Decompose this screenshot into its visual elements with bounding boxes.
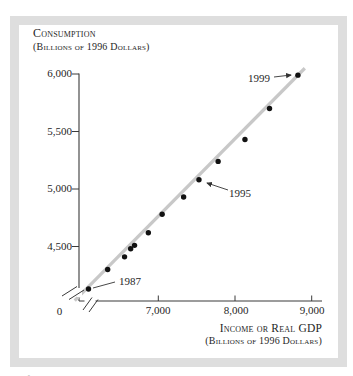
data-point-1991 xyxy=(132,243,137,248)
consumption-function-line xyxy=(75,68,305,300)
data-point-1993 xyxy=(159,212,164,217)
data-point-1989 xyxy=(122,254,127,259)
data-point-1995 xyxy=(196,177,201,182)
y-tick-label-5000: 5,000 xyxy=(28,182,72,195)
annotation-label-1999: 1999 xyxy=(237,72,281,85)
y-tick-label-4500: 4,500 xyxy=(28,240,72,253)
annotation-label-1995: 1995 xyxy=(218,187,262,200)
x-tick-label-7000: 7,000 xyxy=(137,304,179,317)
figure-panel: Consumption (Billions of 1996 Dollars) I… xyxy=(0,0,353,376)
data-point-1994 xyxy=(181,194,186,199)
y-axis-title-units: (Billions of 1996 Dollars) xyxy=(33,41,150,52)
x-axis-title: Income or Real GDP xyxy=(182,322,322,334)
x-tick-label-9000: 9,000 xyxy=(291,304,333,317)
y-axis-title: Consumption xyxy=(33,26,96,41)
x-tick-label-8000: 8,000 xyxy=(215,304,257,317)
data-point-1987 xyxy=(86,286,91,291)
data-point-1999 xyxy=(295,72,300,77)
x-axis-title-units: (Billions of 1996 Dollars) xyxy=(172,335,322,346)
y-axis-break-slash xyxy=(62,287,77,297)
data-point-1992 xyxy=(146,230,151,235)
data-point-1996 xyxy=(215,159,220,164)
data-point-1988 xyxy=(105,267,110,272)
y-tick-label-5500: 5,500 xyxy=(28,125,72,138)
y-tick-label-6000: 6,000 xyxy=(28,67,72,80)
x-tick-label-0: 0 xyxy=(51,305,68,317)
data-point-1998 xyxy=(267,106,272,111)
annotation-label-1987: 1987 xyxy=(108,275,152,288)
data-point-1997 xyxy=(242,137,247,142)
cropped-caption-fragment: Figure 10.1 xyxy=(19,370,129,376)
